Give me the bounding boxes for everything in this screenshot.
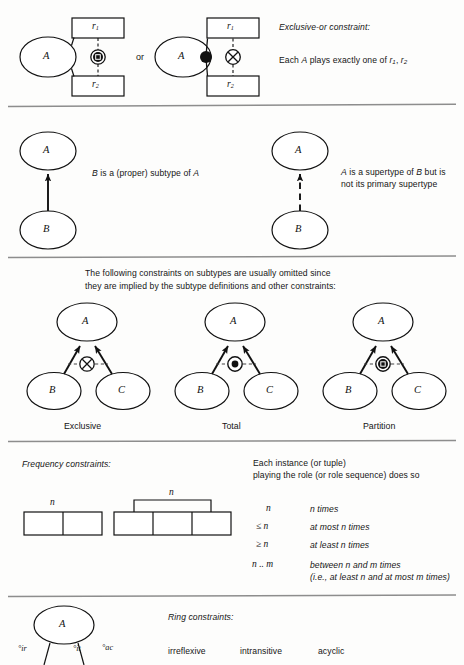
total-super-label: A	[230, 315, 236, 326]
partition-sub-right-label: C	[414, 384, 421, 395]
frequency-row-3-symbol: n .. m	[252, 559, 273, 569]
ring-entity	[34, 606, 94, 665]
partition-sub-left-label: B	[345, 384, 351, 395]
frequency-row-3-meaning-line2: (i.e., at least n and at most m times)	[310, 572, 450, 583]
symbol-circled-dot-square-partition	[376, 357, 390, 371]
xor-right-role1-label: r1	[227, 21, 234, 31]
subtype-left-super-label: A	[43, 144, 49, 155]
xor-heading: Exclusive-or constraint:	[279, 22, 370, 33]
xor-symbol-circled-x-right	[226, 50, 241, 65]
frequency-row-1-meaning: at most n times	[310, 522, 370, 533]
ring-heading: Ring constraints:	[168, 612, 233, 623]
xor-disjunctive-dot-right	[200, 51, 212, 63]
ring-term-acyclic: acyclic	[318, 646, 344, 657]
exclusive-super-label: A	[82, 315, 88, 326]
frequency-note-line2: playing the role (or role sequence) does…	[253, 470, 420, 481]
frequency-shape-compound	[114, 500, 231, 535]
caption-total: Total	[222, 421, 241, 431]
xor-description: Each A plays exactly one of r1, r2	[279, 55, 407, 67]
total-sub-left-label: B	[197, 384, 203, 395]
xor-symbol-circled-dot-square-left	[91, 50, 105, 64]
reference-page: A r1 r2 or A r1 r2 Exclusive-or constrai…	[0, 0, 464, 665]
ring-marker-ir: °ir	[18, 644, 27, 653]
caption-exclusive: Exclusive	[64, 421, 101, 431]
subtype-right-super-label: A	[295, 144, 301, 155]
frequency-row-1-symbol: ≤ n	[256, 521, 268, 531]
subtype-right-sub-label: B	[295, 223, 301, 234]
subtype-right-description-line2: not its primary supertype	[341, 179, 437, 190]
ring-term-irreflexive: irreflexive	[168, 646, 206, 657]
xor-left-role1-label: r1	[92, 21, 99, 31]
ring-term-intransitive: intransitive	[240, 646, 282, 657]
xor-connector-word: or	[136, 52, 144, 63]
xor-right-role2-label: r2	[227, 79, 234, 89]
implied-note-line1: The following constraints on subtypes ar…	[85, 268, 331, 279]
frequency-shape-simple	[24, 512, 102, 535]
implied-diagram-exclusive	[27, 303, 150, 410]
xor-right-entity-label: A	[178, 50, 184, 61]
frequency-simple-label: n	[50, 497, 55, 507]
subtype-right-description-line1: A is a supertype of B but is	[341, 167, 446, 178]
frequency-row-2-symbol: ≥ n	[256, 539, 268, 549]
symbol-circled-x-exclusive	[80, 357, 94, 371]
frequency-note-line1: Each instance (or tuple)	[253, 458, 346, 469]
implied-note-line2: they are implied by the subtype definiti…	[85, 281, 336, 292]
frequency-heading: Frequency constraints:	[22, 459, 111, 470]
caption-partition: Partition	[363, 421, 395, 431]
xor-diagram-left	[20, 18, 124, 96]
ring-entity-label: A	[59, 618, 65, 629]
xor-left-role2-label: r2	[92, 79, 99, 89]
partition-super-label: A	[378, 315, 384, 326]
subtype-left-description: B is a (proper) subtype of A	[92, 168, 199, 179]
frequency-compound-label: n	[169, 487, 174, 497]
frequency-row-2-meaning: at least n times	[310, 540, 369, 551]
subtype-left-sub-label: B	[43, 223, 49, 234]
frequency-row-0-meaning: n times	[310, 504, 338, 515]
frequency-row-3-meaning: between n and m times	[310, 560, 401, 571]
symbol-circled-dot-total	[228, 357, 242, 371]
ring-marker-it: °it	[73, 644, 81, 653]
total-sub-right-label: C	[266, 384, 273, 395]
ring-marker-ac: °ac	[102, 643, 113, 652]
exclusive-sub-left-label: B	[49, 384, 55, 395]
exclusive-sub-right-label: C	[118, 384, 125, 395]
frequency-row-0-symbol: n	[266, 503, 271, 513]
xor-left-entity-label: A	[43, 50, 49, 61]
